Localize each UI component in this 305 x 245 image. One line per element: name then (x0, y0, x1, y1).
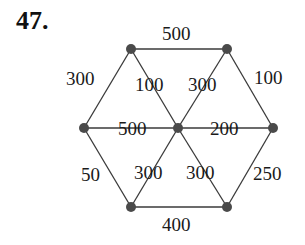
edge-weight-label: 300 (186, 162, 215, 183)
node-top-right (222, 44, 232, 54)
edge-weight-label: 400 (162, 214, 191, 235)
node-top-left (126, 44, 136, 54)
edge-weight-label: 100 (254, 67, 283, 88)
node-bottom-left (126, 202, 136, 212)
edge-weight-label: 300 (66, 68, 95, 89)
edge-weight-label: 500 (118, 118, 147, 139)
node-left (79, 123, 89, 133)
edge-weight-label: 250 (253, 163, 282, 184)
edge-weight-label: 50 (81, 164, 100, 185)
edge-weight-label: 300 (134, 162, 163, 183)
edge-top-right-right (227, 49, 273, 128)
edge-weight-label: 500 (162, 23, 191, 44)
node-center (173, 123, 183, 133)
weighted-graph: 50010025040050300100300500200300300 (0, 0, 305, 245)
node-right (268, 123, 278, 133)
edge-weight-label: 200 (210, 118, 239, 139)
edge-weight-label: 300 (188, 74, 217, 95)
edge-weight-label: 100 (135, 74, 164, 95)
node-bottom-right (222, 202, 232, 212)
